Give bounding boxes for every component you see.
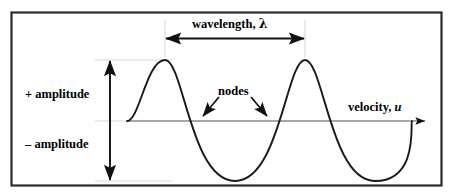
wavelength-label-text: wavelength, xyxy=(192,17,259,31)
velocity-label: velocity, u xyxy=(348,101,401,114)
wave-diagram-figure: wavelength, λ + amplitude – amplitude no… xyxy=(0,0,456,195)
plus-amplitude-label: + amplitude xyxy=(25,88,89,101)
nodes-label: nodes xyxy=(218,85,249,98)
velocity-label-text: velocity, xyxy=(348,100,395,114)
velocity-symbol: u xyxy=(395,100,402,114)
lambda-symbol: λ xyxy=(259,16,268,31)
wavelength-label: wavelength, λ xyxy=(192,18,267,31)
minus-amplitude-label: – amplitude xyxy=(25,138,89,151)
